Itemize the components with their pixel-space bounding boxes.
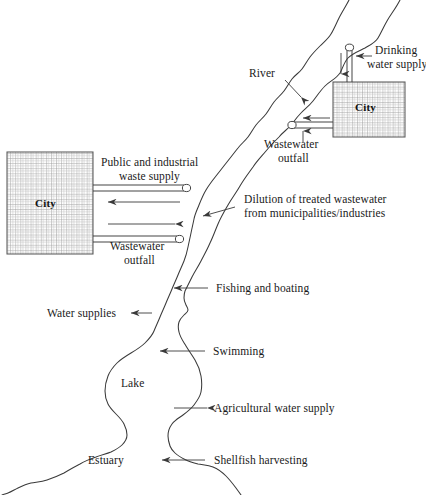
leader-dilution [203,207,235,216]
public-industrial-supply-pipe [93,184,191,202]
label-river: River [249,67,275,81]
label-lake: Lake [121,377,144,391]
label-wastewater-outfall-upper-line2: outfall [278,152,309,166]
diagram-canvas [0,0,426,495]
label-fishing-and-boating: Fishing and boating [216,282,309,296]
intake-port-public-industrial [182,184,190,191]
label-dilution-line1: Dilution of treated wastewater [244,193,387,207]
label-public-industrial-line2: waste supply [119,170,180,184]
outfall-port-lower [175,235,183,242]
drinking-water-supply-pipe [341,44,354,82]
river-water-use-diagram: City City River Drinking water supply Wa… [0,0,426,495]
label-wastewater-outfall-upper-line1: Wastewater [264,138,318,152]
leader-river [285,80,301,97]
label-swimming: Swimming [213,345,264,359]
label-drinking-water-supply-line1: Drinking [375,44,417,58]
river-bank-east [168,0,400,495]
outfall-port-upper [288,121,296,128]
label-agricultural-water-supply: Agricultural water supply [214,402,335,416]
label-public-industrial-line1: Public and industrial [101,156,198,170]
label-water-supplies: Water supplies [47,307,116,321]
label-wastewater-outfall-lower-line2: outfall [124,254,155,268]
city-upstream-label: City [355,101,376,113]
label-estuary: Estuary [88,454,124,468]
label-drinking-water-supply-line2: water supply [367,58,426,72]
label-shellfish-harvesting: Shellfish harvesting [214,454,308,468]
intake-port-drinking [345,44,353,51]
city-downstream-label: City [35,197,56,209]
label-wastewater-outfall-lower-line1: Wastewater [110,240,164,254]
label-dilution-line2: from municipalities/industries [244,207,385,221]
